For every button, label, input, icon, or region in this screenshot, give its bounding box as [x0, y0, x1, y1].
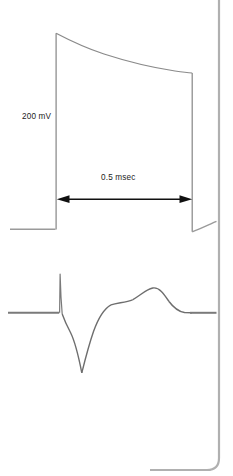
- lower-trace-decay-to-baseline: [169, 302, 192, 313]
- scale-annotations-group: 200 mV 0.5 msec: [22, 112, 192, 203]
- time-scale-arrowhead-right: [180, 195, 193, 203]
- electrophysiology-figure: 200 mV 0.5 msec: [0, 0, 233, 476]
- lower-trace-negative-deflection: [62, 314, 82, 373]
- upper-trace-undershoot-tail: [192, 221, 216, 231]
- upper-trace-sag-decay: [56, 33, 192, 73]
- lower-trace-group: [8, 274, 217, 373]
- lower-trace-stimulus-artifact: [60, 274, 63, 314]
- figure-container: 200 mV 0.5 msec: [0, 0, 233, 476]
- upper-trace-group: [10, 33, 217, 232]
- lower-trace-positive-peak: [133, 288, 170, 302]
- time-scale-label: 0.5 msec: [101, 173, 135, 182]
- lower-trace-trough-recovery: [82, 305, 111, 373]
- voltage-scale-label: 200 mV: [22, 112, 52, 121]
- time-scale-arrowhead-left: [57, 195, 70, 203]
- panel-border: [150, 0, 219, 470]
- lower-trace-shoulder-plateau: [111, 300, 133, 305]
